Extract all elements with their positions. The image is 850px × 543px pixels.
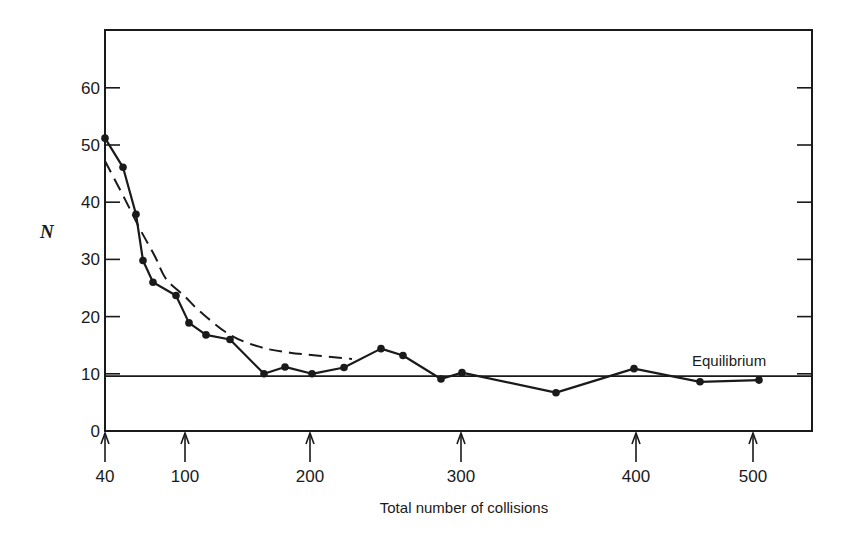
y-tick-label: 0: [91, 422, 100, 441]
data-point-marker: [755, 376, 763, 384]
chart: 0102030405060 40100200300400500 Equilibr…: [0, 0, 850, 543]
data-point-marker: [399, 352, 407, 360]
x-axis-title: Total number of collisions: [380, 499, 548, 516]
y-tick-label: 30: [81, 250, 100, 269]
data-point-marker: [340, 364, 348, 372]
data-point-marker: [552, 389, 560, 397]
data-point-marker: [101, 134, 109, 142]
data-point-marker: [132, 210, 140, 218]
plot-frame: [105, 30, 812, 431]
data-point-marker: [458, 369, 466, 377]
y-tick-label: 20: [81, 308, 100, 327]
x-tick-label: 400: [622, 467, 650, 486]
x-tick-label: 500: [739, 467, 767, 486]
equilibrium-label: Equilibrium: [692, 352, 766, 369]
data-point-marker: [260, 370, 268, 378]
data-point-marker: [630, 365, 638, 373]
x-tick-label: 100: [171, 467, 199, 486]
observed-series-line: [105, 138, 759, 393]
data-point-marker: [437, 375, 445, 383]
data-point-marker: [149, 278, 157, 286]
data-point-marker: [696, 378, 704, 386]
data-point-marker: [172, 292, 180, 300]
data-point-marker: [185, 319, 193, 327]
y-tick-label: 50: [81, 136, 100, 155]
x-tick-label: 300: [447, 467, 475, 486]
y-axis-ticks: 0102030405060: [81, 79, 812, 441]
y-tick-label: 40: [81, 193, 100, 212]
x-axis-ticks: 40100200300400500: [96, 433, 768, 486]
x-tick-label: 40: [96, 467, 115, 486]
y-axis-title: N: [39, 221, 55, 242]
data-point-marker: [202, 331, 210, 339]
y-tick-label: 10: [81, 365, 100, 384]
data-point-marker: [377, 345, 385, 353]
data-point-marker: [139, 257, 147, 265]
data-point-marker: [281, 363, 289, 371]
x-tick-label: 200: [296, 467, 324, 486]
data-point-marker: [226, 336, 234, 344]
observed-markers: [101, 134, 763, 396]
data-point-marker: [119, 164, 127, 172]
y-tick-label: 60: [81, 79, 100, 98]
data-point-marker: [308, 370, 316, 378]
